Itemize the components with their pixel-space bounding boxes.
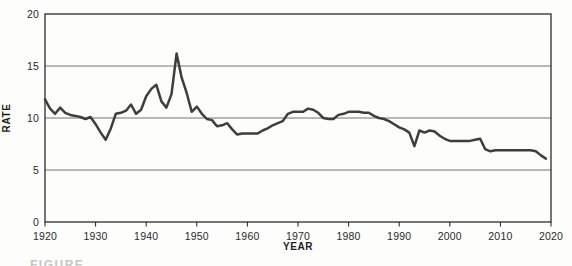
x-tick-label: 1940: [134, 230, 158, 242]
y-tick-label: 5: [33, 164, 39, 176]
axis-ticks-and-labels: 0510152019201930194019501960197019801990…: [27, 8, 563, 243]
rate-by-year-line-chart: 0510152019201930194019501960197019801990…: [0, 0, 572, 266]
y-axis-title: RATE: [1, 104, 12, 133]
data-line-layer: [45, 54, 546, 159]
x-tick-label: 1950: [185, 230, 209, 242]
y-tick-label: 20: [27, 8, 39, 20]
y-tick-label: 10: [27, 112, 39, 124]
x-tick-label: 1930: [84, 230, 108, 242]
x-tick-label: 1920: [33, 230, 57, 242]
x-tick-label: 2000: [438, 230, 462, 242]
y-tick-label: 15: [27, 60, 39, 72]
chart-canvas: 0510152019201930194019501960197019801990…: [0, 0, 572, 266]
x-tick-label: 2010: [488, 230, 512, 242]
x-tick-label: 1960: [235, 230, 259, 242]
data-line: [45, 54, 546, 159]
x-axis-title: YEAR: [283, 241, 313, 252]
gridlines: [45, 66, 551, 170]
x-tick-label: 1980: [337, 230, 361, 242]
x-tick-label: 1990: [387, 230, 411, 242]
y-tick-label: 0: [33, 216, 39, 228]
x-tick-label: 2020: [539, 230, 563, 242]
figure-caption: FIGURE: [30, 258, 84, 266]
